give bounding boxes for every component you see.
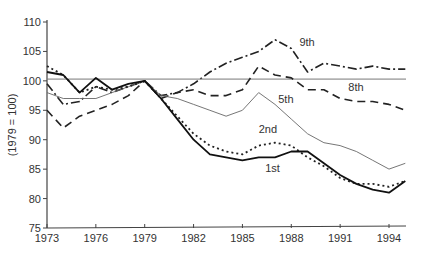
x-axis: 19731976197919821985198819911994	[35, 224, 406, 244]
x-tick-label: 1982	[181, 232, 205, 244]
y-tick-label: 80	[29, 193, 41, 205]
y-tick-label: 90	[29, 134, 41, 146]
series-line-unlabeled	[47, 81, 405, 169]
y-tick-label: 95	[29, 104, 41, 116]
x-tick-label: 1991	[328, 232, 352, 244]
y-axis-label: (1979 = 100)	[6, 94, 18, 157]
series-label-5th: 5th	[278, 93, 293, 105]
series-label-2nd: 2nd	[259, 123, 277, 135]
line-chart: 7580859095100105110 19731976197919821985…	[0, 0, 421, 261]
y-axis: 7580859095100105110	[23, 16, 47, 234]
x-tick-label: 1973	[35, 232, 59, 244]
series-label-1st: 1st	[265, 162, 280, 174]
series-lines	[47, 40, 406, 193]
x-tick-label: 1988	[279, 232, 303, 244]
x-tick-label: 1979	[132, 232, 156, 244]
y-tick-label: 105	[23, 45, 41, 57]
y-tick-label: 110	[23, 16, 41, 28]
x-tick-label: 1994	[377, 232, 401, 244]
y-tick-label: 100	[23, 75, 41, 87]
series-line-9th	[47, 40, 405, 105]
series-label-9th: 9th	[299, 36, 314, 48]
x-tick-label: 1976	[84, 232, 108, 244]
y-tick-label: 85	[29, 163, 41, 175]
x-tick-label: 1985	[230, 232, 254, 244]
series-label-8th: 8th	[348, 81, 363, 93]
